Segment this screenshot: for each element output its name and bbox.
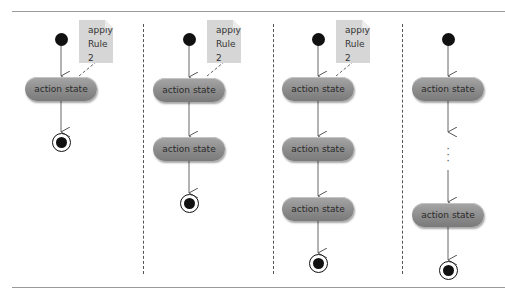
action-state: action state bbox=[412, 203, 484, 227]
connectors bbox=[0, 0, 505, 297]
final-node bbox=[180, 194, 199, 213]
action-state: action state bbox=[153, 137, 225, 161]
final-node bbox=[309, 254, 328, 273]
action-state: action state bbox=[25, 77, 97, 101]
initial-node bbox=[312, 33, 325, 46]
note-apply-rule-2: apply Rule 2 bbox=[336, 20, 370, 63]
action-state: action state bbox=[282, 77, 354, 101]
note-apply-rule-2: apply Rule 2 bbox=[79, 20, 113, 63]
note-apply-rule-2: apply Rule 2 bbox=[207, 20, 241, 63]
initial-node bbox=[183, 33, 196, 46]
action-state: action state bbox=[282, 137, 354, 161]
note-line-2: Rule 2 bbox=[88, 37, 113, 65]
note-line-1: apply bbox=[345, 23, 370, 37]
action-state: action state bbox=[282, 197, 354, 221]
final-node bbox=[439, 261, 458, 280]
note-line-1: apply bbox=[216, 23, 241, 37]
note-line-2: Rule 2 bbox=[216, 37, 241, 65]
action-state: action state bbox=[412, 77, 484, 101]
final-node bbox=[52, 133, 71, 152]
initial-node bbox=[55, 33, 68, 46]
note-line-1: apply bbox=[88, 23, 113, 37]
initial-node bbox=[442, 33, 455, 46]
note-line-2: Rule 2 bbox=[345, 37, 370, 65]
action-state: action state bbox=[153, 78, 225, 102]
ellipsis-continuation: ··· bbox=[445, 146, 451, 166]
